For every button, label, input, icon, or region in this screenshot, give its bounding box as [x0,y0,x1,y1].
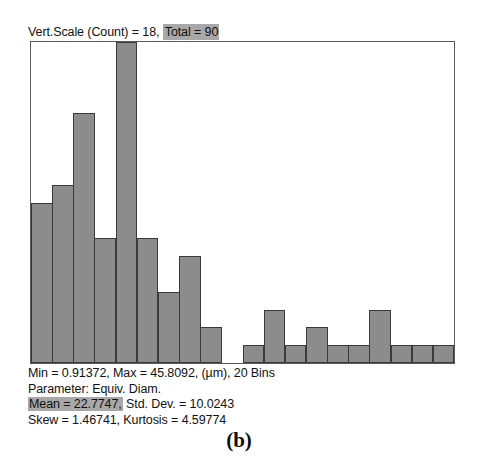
stat-line-parameter: Parameter: Equiv. Diam. [28,382,458,398]
histogram-figure: Vert.Scale (Count) = 18, Total = 90 Min … [0,0,478,463]
histogram-bar [391,345,413,363]
histogram-bar [179,256,201,363]
total-label: Total = 90 [163,24,220,40]
histogram-bar [94,238,116,363]
histogram-bars [31,42,454,363]
std-dev-value: Std. Dev. = 10.0243 [123,397,234,411]
histogram-bar [433,345,455,363]
histogram-bar [306,327,328,363]
vert-scale-label: Vert.Scale (Count) = 18, [28,25,159,39]
statistics-block: Min = 0.91372, Max = 45.8092, (µm), 20 B… [28,366,458,428]
figure-caption: (b) [0,428,478,453]
histogram-bar [285,345,307,363]
histogram-bar [264,310,286,364]
histogram-bar [73,113,95,363]
histogram-bar [137,238,159,363]
stat-line-skew: Skew = 1.46741, Kurtosis = 4.59774 [28,413,458,429]
chart-header: Vert.Scale (Count) = 18, Total = 90 [28,24,265,40]
histogram-bar [116,42,138,363]
histogram-bar [369,310,391,364]
histogram-bar [158,292,180,363]
histogram-bar [31,203,53,364]
stat-line-minmax: Min = 0.91372, Max = 45.8092, (µm), 20 B… [28,366,458,382]
histogram-bar [52,185,74,363]
histogram-bar [327,345,349,363]
mean-value: Mean = 22.7747, [28,397,123,411]
plot-area [30,41,455,364]
stat-line-mean: Mean = 22.7747, Std. Dev. = 10.0243 [28,397,458,413]
histogram-bar [412,345,434,363]
histogram-bar [200,327,222,363]
histogram-bar [348,345,370,363]
histogram-bar [243,345,265,363]
